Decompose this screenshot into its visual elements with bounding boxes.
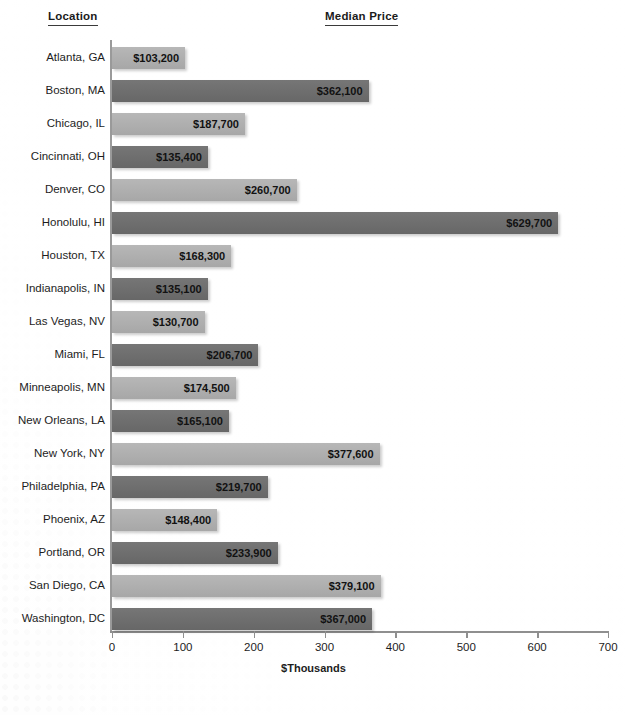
plot-area: Atlanta, GA$103,200Boston, MA$362,100Chi… xyxy=(0,40,627,640)
bar-value-label: $377,600 xyxy=(318,443,374,465)
x-tick-label: 500 xyxy=(457,641,476,653)
x-tick-label: 600 xyxy=(528,641,547,653)
category-label: Washington, DC xyxy=(0,607,105,630)
x-tick-label: 0 xyxy=(109,641,115,653)
bar-row: Portland, OR$233,900 xyxy=(0,541,627,574)
category-label: Denver, CO xyxy=(0,178,105,201)
column-header-median-price: Median Price xyxy=(325,10,398,26)
bar-row: Phoenix, AZ$148,400 xyxy=(0,508,627,541)
x-tick-label: 300 xyxy=(315,641,334,653)
bar-value-label: $379,100 xyxy=(319,575,375,597)
x-tick-mark xyxy=(537,631,538,638)
category-label: New York, NY xyxy=(0,442,105,465)
category-label: New Orleans, LA xyxy=(0,409,105,432)
bar-value-label: $165,100 xyxy=(167,410,223,432)
category-label: Chicago, IL xyxy=(0,112,105,135)
category-label: Indianapolis, IN xyxy=(0,277,105,300)
chart-page: Location Median Price Atlanta, GA$103,20… xyxy=(0,0,627,715)
bar-row: San Diego, CA$379,100 xyxy=(0,574,627,607)
bar xyxy=(112,212,558,234)
bar-value-label: $103,200 xyxy=(123,47,179,69)
x-tick-mark xyxy=(325,631,326,638)
bar-row: Minneapolis, MN$174,500 xyxy=(0,376,627,409)
bar-row: Indianapolis, IN$135,100 xyxy=(0,277,627,310)
bar-value-label: $168,300 xyxy=(169,245,225,267)
column-header-location: Location xyxy=(48,10,98,26)
category-label: Las Vegas, NV xyxy=(0,310,105,333)
chart-content: Location Median Price Atlanta, GA$103,20… xyxy=(0,0,627,715)
bar-row: Honolulu, HI$629,700 xyxy=(0,211,627,244)
category-label: Miami, FL xyxy=(0,343,105,366)
category-label: Phoenix, AZ xyxy=(0,508,105,531)
x-axis-title: $Thousands xyxy=(0,662,627,674)
bar-value-label: $135,400 xyxy=(146,146,202,168)
bar-value-label: $174,500 xyxy=(174,377,230,399)
category-label: Houston, TX xyxy=(0,244,105,267)
bar-row: Denver, CO$260,700 xyxy=(0,178,627,211)
x-tick-mark xyxy=(254,631,255,638)
x-tick-mark xyxy=(112,631,113,638)
bar-row: Las Vegas, NV$130,700 xyxy=(0,310,627,343)
category-label: San Diego, CA xyxy=(0,574,105,597)
x-tick-mark xyxy=(466,631,467,638)
bar-value-label: $130,700 xyxy=(143,311,199,333)
bar-value-label: $187,700 xyxy=(183,113,239,135)
category-label: Boston, MA xyxy=(0,79,105,102)
bar-value-label: $148,400 xyxy=(155,509,211,531)
bar-value-label: $135,100 xyxy=(146,278,202,300)
bar-value-label: $362,100 xyxy=(307,80,363,102)
x-tick-mark xyxy=(183,631,184,638)
bar-row: Boston, MA$362,100 xyxy=(0,79,627,112)
bar-row: Chicago, IL$187,700 xyxy=(0,112,627,145)
x-tick-mark xyxy=(395,631,396,638)
bar-row: Miami, FL$206,700 xyxy=(0,343,627,376)
bar-row: New York, NY$377,600 xyxy=(0,442,627,475)
bar-value-label: $206,700 xyxy=(196,344,252,366)
bar-row: Cincinnati, OH$135,400 xyxy=(0,145,627,178)
bar-row: New Orleans, LA$165,100 xyxy=(0,409,627,442)
bar-value-label: $629,700 xyxy=(496,212,552,234)
bar-row: Washington, DC$367,000 xyxy=(0,607,627,640)
x-tick-label: 700 xyxy=(598,641,617,653)
x-tick-label: 400 xyxy=(386,641,405,653)
bar-row: Houston, TX$168,300 xyxy=(0,244,627,277)
category-label: Minneapolis, MN xyxy=(0,376,105,399)
bar-row: Philadelphia, PA$219,700 xyxy=(0,475,627,508)
x-tick-label: 200 xyxy=(244,641,263,653)
bar-row: Atlanta, GA$103,200 xyxy=(0,46,627,79)
category-label: Atlanta, GA xyxy=(0,46,105,69)
bar-value-label: $233,900 xyxy=(216,542,272,564)
x-tick-label: 100 xyxy=(173,641,192,653)
bar-value-label: $367,000 xyxy=(310,608,366,630)
category-label: Portland, OR xyxy=(0,541,105,564)
bar-value-label: $260,700 xyxy=(235,179,291,201)
category-label: Honolulu, HI xyxy=(0,211,105,234)
bar-value-label: $219,700 xyxy=(206,476,262,498)
category-label: Philadelphia, PA xyxy=(0,475,105,498)
category-label: Cincinnati, OH xyxy=(0,145,105,168)
x-tick-mark xyxy=(608,631,609,638)
